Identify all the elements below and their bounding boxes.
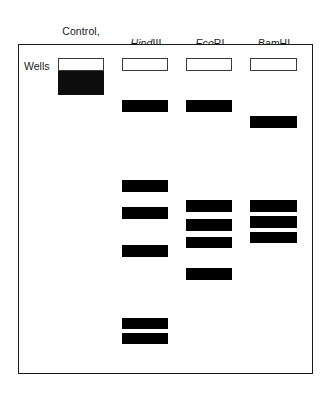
well-ecori [186,58,232,71]
band-hindiii-1 [122,100,168,112]
uncut-dna-smear-control [58,71,104,95]
band-ecori-2 [186,200,232,212]
band-hindiii-6 [122,333,168,344]
well-hindiii [122,58,168,71]
band-ecori-3 [186,219,232,231]
well-control [58,58,104,71]
band-hindiii-5 [122,318,168,329]
lane-bamhi [250,44,297,374]
band-ecori-5 [186,268,232,280]
lane-control [58,44,104,374]
well-bamhi [250,58,297,71]
band-bamhi-3 [250,216,297,228]
control-header-line1: Control, [62,25,100,37]
band-hindiii-2 [122,180,168,192]
band-ecori-1 [186,100,232,112]
band-bamhi-2 [250,200,297,212]
lane-hindiii [122,44,168,374]
band-bamhi-1 [250,116,297,128]
gel-electrophoresis-figure: Control, no enzyme HindIII EcoRI BamHI W… [0,0,330,394]
band-ecori-4 [186,237,232,248]
band-hindiii-3 [122,207,168,219]
lane-ecori [186,44,232,374]
band-bamhi-4 [250,232,297,243]
wells-label: Wells [24,60,49,73]
band-hindiii-4 [122,245,168,257]
